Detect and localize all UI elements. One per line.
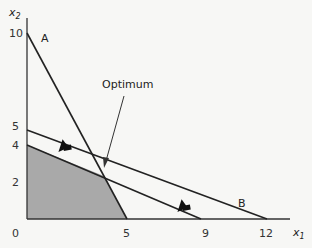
direction-arrow-icon [173, 197, 192, 216]
y-tick-5: 5 [12, 120, 19, 133]
lp-chart: Optimum A B x2 x1 10 5 4 2 0 5 9 12 [0, 0, 312, 248]
optimum-label: Optimum [102, 78, 153, 91]
x-tick-12: 12 [259, 227, 273, 240]
arrowhead-icon [103, 157, 109, 168]
direction-arrow-icon [54, 137, 73, 156]
origin-label: 0 [12, 227, 19, 240]
y-tick-4: 4 [12, 139, 19, 152]
y-tick-2: 2 [12, 176, 19, 189]
y-tick-10: 10 [9, 27, 23, 40]
optimum-pointer [106, 96, 124, 161]
x-axis-label: x1 [292, 226, 305, 241]
y-axis-label: x2 [8, 6, 21, 21]
line-b-label: B [238, 197, 246, 210]
line-a-label: A [41, 32, 49, 45]
x-tick-5: 5 [123, 227, 130, 240]
x-tick-9: 9 [202, 227, 209, 240]
